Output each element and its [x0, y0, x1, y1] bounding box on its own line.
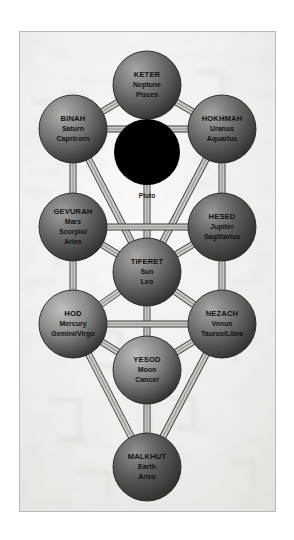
sephira-attribute-binah-2: Capricorn [56, 135, 89, 143]
sephira-attribute-keter-1: Neptune [133, 81, 161, 89]
sephira-attribute-hokhmah-1: Uranus [210, 125, 234, 132]
sephira-name-hod: HOD [64, 309, 82, 318]
sephira-name-nezach: NEZACH [206, 309, 239, 318]
sephira-name-tiferet: TIFERET [131, 257, 164, 266]
sephira-name-yesod: YESOD [133, 355, 161, 364]
sephira-attribute-malkhut-2: Aries [138, 473, 156, 480]
sephira-attribute-gevurah-1: Mars [65, 218, 81, 225]
pluto-label: Pluto [139, 192, 155, 199]
sephira-nezach[interactable]: NEZACHVenusTaurus/Libra [188, 290, 256, 358]
page-root: DA'ATPluto KETERNeptunePiscesBINAHSaturn… [0, 0, 294, 540]
sephira-attribute-hesed-2: Sagittarius [204, 233, 240, 241]
sephira-attribute-yesod-2: Cancer [135, 376, 159, 383]
sephira-binah[interactable]: BINAHSaturnCapricorn [39, 95, 107, 163]
sephira-hokhmah[interactable]: HOKHMAHUranusAquarius [188, 95, 256, 163]
sephira-attribute-binah-1: Saturn [62, 125, 84, 132]
sephira-yesod[interactable]: YESODMoonCancer [113, 336, 181, 404]
sephira-hesed[interactable]: HESEDJupiterSagittarius [188, 193, 256, 261]
sephira-gevurah[interactable]: GEVURAHMarsScorpio/Aries [39, 193, 107, 261]
sephira-tiferet[interactable]: TIFERETSunLeo [113, 238, 181, 306]
sephira-attribute-tiferet-1: Sun [140, 268, 153, 275]
sephira-name-gevurah: GEVURAH [53, 207, 92, 216]
sephira-attribute-nezach-1: Venus [212, 320, 233, 327]
sephira-name-hesed: HESED [209, 212, 236, 221]
sephira-attribute-hod-2: Gemini/Virgo [51, 330, 94, 338]
sephira-name-binah: BINAH [61, 114, 86, 123]
sephira-name-malkhut: MALKHUT [128, 452, 167, 461]
sephira-attribute-hokhmah-2: Aquarius [207, 135, 237, 143]
sephira-attribute-keter-2: Pisces [136, 91, 158, 98]
sephira-attribute-tiferet-2: Leo [141, 278, 153, 285]
sephira-keter[interactable]: KETERNeptunePisces [113, 51, 181, 119]
sephira-attribute-hod-1: Mercury [59, 320, 86, 328]
sephira-name-keter: KETER [134, 70, 161, 79]
sephira-attribute-nezach-2: Taurus/Libra [201, 330, 243, 337]
sephira-attribute-gevurah-2: Scorpio/ [59, 228, 87, 236]
tree-of-life-figure: DA'ATPluto KETERNeptunePiscesBINAHSaturn… [19, 31, 276, 512]
tree-of-life-diagram: DA'ATPluto KETERNeptunePiscesBINAHSaturn… [20, 32, 275, 511]
sephira-attribute-hesed-1: Jupiter [210, 223, 234, 231]
sephira-attribute-yesod-1: Moon [138, 366, 157, 373]
sephira-name-hokhmah: HOKHMAH [202, 114, 243, 123]
sephira-attribute-malkhut-1: Earth [138, 463, 156, 470]
sephira-malkhut[interactable]: MALKHUTEarthAries [113, 433, 181, 501]
sephira-hod[interactable]: HODMercuryGemini/Virgo [39, 290, 107, 358]
sephira-attribute-gevurah-3: Aries [64, 238, 82, 245]
